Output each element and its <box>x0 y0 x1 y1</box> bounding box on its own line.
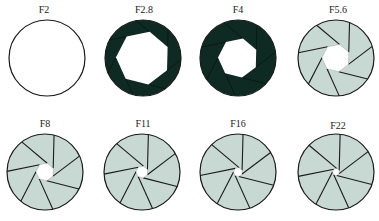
aperture-f5-6 <box>298 20 374 96</box>
aperture-f8 <box>7 134 83 210</box>
label-f11: F11 <box>135 119 150 129</box>
aperture-f22 <box>298 134 374 210</box>
aperture-f4 <box>200 20 276 96</box>
aperture-drawing <box>0 0 379 221</box>
label-f5-6: F5.6 <box>329 5 347 15</box>
aperture-f16 <box>200 134 276 210</box>
aperture-f11 <box>104 134 180 210</box>
label-f2: F2 <box>39 5 50 15</box>
aperture-f2-8 <box>105 20 181 96</box>
aperture-f2 <box>9 20 85 96</box>
label-f4: F4 <box>233 5 244 15</box>
label-f22: F22 <box>330 121 346 131</box>
label-f2-8: F2.8 <box>135 5 153 15</box>
aperture-diagram: F2 F2.8 F4 F5.6 F8 F11 F16 F22 <box>0 0 379 221</box>
label-f8: F8 <box>40 119 51 129</box>
label-f16: F16 <box>230 119 246 129</box>
